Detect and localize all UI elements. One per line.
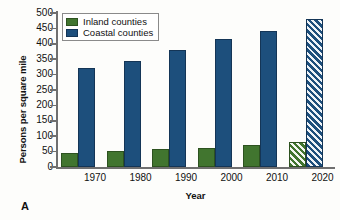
y-tick-mark: [50, 12, 56, 14]
y-tick-mark: [50, 43, 56, 45]
bar-inland-2010: [243, 145, 260, 167]
y-tick-mark: [50, 89, 56, 91]
y-tick-mark: [50, 105, 56, 107]
bar-inland-1970: [61, 153, 78, 167]
legend-swatch-coastal-icon: [66, 29, 78, 37]
bar-coastal-1980: [124, 61, 141, 167]
legend-label-inland: Inland counties: [83, 16, 147, 27]
chart-figure: Persons per square mile 0501001502002503…: [0, 0, 340, 220]
y-tick-mark: [50, 166, 56, 168]
x-tick-label: 2020: [293, 172, 340, 183]
bar-inland-2000: [198, 148, 215, 167]
y-tick-mark: [50, 74, 56, 76]
bar-coastal-1990: [169, 50, 186, 167]
bar-coastal-2000: [215, 39, 232, 167]
y-tick-mark: [50, 120, 56, 122]
bar-coastal-2020: [306, 19, 323, 167]
x-axis-line: [56, 167, 335, 169]
bar-coastal-1970: [78, 68, 95, 167]
y-tick-mark: [50, 135, 56, 137]
y-tick-mark: [50, 28, 56, 30]
panel-letter: A: [21, 200, 29, 212]
legend-item-inland: Inland counties: [66, 16, 153, 27]
y-axis-label: Persons per square mile: [17, 35, 28, 185]
y-tick-mark: [50, 58, 56, 60]
y-tick-mark: [50, 151, 56, 153]
bar-inland-2020: [289, 142, 306, 167]
chart-legend: Inland counties Coastal counties: [62, 13, 159, 41]
legend-item-coastal: Coastal counties: [66, 27, 153, 38]
x-axis-label: Year: [56, 190, 335, 201]
bar-coastal-2010: [260, 31, 277, 167]
bar-inland-1980: [107, 151, 124, 167]
legend-label-coastal: Coastal counties: [83, 27, 153, 38]
bar-inland-1990: [152, 149, 169, 167]
legend-swatch-inland-icon: [66, 18, 78, 26]
